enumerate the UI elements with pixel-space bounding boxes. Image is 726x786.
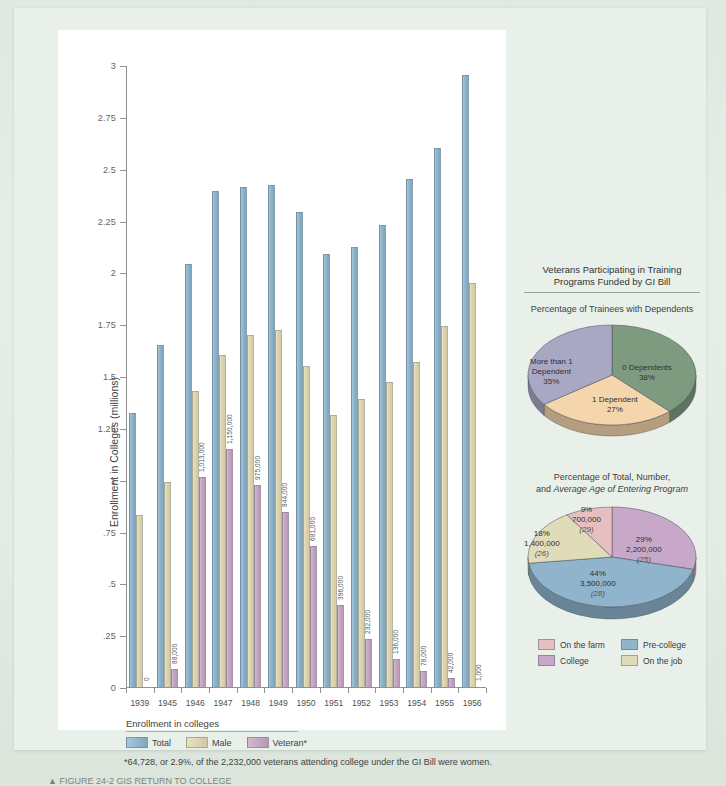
bar-vet[interactable]: 136,000 <box>393 659 400 687</box>
y-axis-line <box>126 66 127 688</box>
x-tick <box>320 688 321 693</box>
bar-vet[interactable]: 232,000 <box>365 639 372 687</box>
bar-vet[interactable]: 975,000 <box>254 485 261 687</box>
y-tick: 2.25 <box>120 222 126 223</box>
legend-item-total[interactable]: Total <box>126 737 171 748</box>
bar-value-label: 1,150,000 <box>226 414 233 444</box>
bar-total[interactable] <box>296 212 303 687</box>
x-tick-label: 1956 <box>463 698 482 708</box>
y-tick-label: .5 <box>108 579 116 589</box>
pie2-legend-swatch-icon <box>621 639 638 650</box>
bar-total[interactable] <box>268 185 275 687</box>
bar-total[interactable] <box>462 75 469 687</box>
bar-vet[interactable]: 396,000 <box>337 605 344 687</box>
y-tick-label: 1.5 <box>103 372 116 382</box>
x-tick-label: 1950 <box>297 698 316 708</box>
pie2-legend-item-college[interactable]: College <box>538 655 617 666</box>
bar-group: 136,000 <box>378 66 401 687</box>
bar-male[interactable] <box>164 482 171 687</box>
bar-vet[interactable]: 844,000 <box>282 512 289 687</box>
bar-total[interactable] <box>379 225 386 687</box>
legend-items: TotalMaleVeteran* <box>126 737 506 748</box>
y-axis-title: Enrollment in Colleges (millions) <box>108 377 120 527</box>
y-tick-label: 3 <box>111 61 116 71</box>
x-tick <box>237 688 238 693</box>
legend-item-label: Veteran* <box>273 738 308 748</box>
bar-total[interactable] <box>185 264 192 687</box>
bar-male[interactable] <box>192 391 199 687</box>
x-tick-label: 1946 <box>186 698 205 708</box>
pie1-title: Percentage of Trainees with Dependents <box>514 303 710 315</box>
legend-item-male[interactable]: Male <box>186 737 232 748</box>
legend-title: Enrollment in colleges <box>126 718 298 732</box>
bar-male[interactable] <box>469 283 476 687</box>
x-tick-label: 1947 <box>213 698 232 708</box>
bar-chart-legend: Enrollment in colleges TotalMaleVeteran* <box>126 718 506 748</box>
bar-total[interactable] <box>129 413 136 687</box>
bar-male[interactable] <box>219 355 226 687</box>
bar-value-label: 0 <box>143 677 150 681</box>
legend-item-label: Total <box>152 738 171 748</box>
y-tick-label: 1 <box>111 476 116 486</box>
bar-male[interactable] <box>247 335 254 687</box>
bar-group: 975,000 <box>239 66 262 687</box>
y-tick-label: .75 <box>103 528 116 538</box>
x-tick-label: 1949 <box>269 698 288 708</box>
bar-group: 1,000 <box>461 66 484 687</box>
bar-total[interactable] <box>351 247 358 687</box>
bar-value-label: 396,000 <box>337 576 344 600</box>
pie2-title: Percentage of Total, Number, and Average… <box>514 471 710 495</box>
x-tick <box>292 688 293 693</box>
bar-group: 232,000 <box>350 66 373 687</box>
figure-caption: ▲ FIGURE 24-2 GIS RETURN TO COLLEGE <box>48 776 232 786</box>
bar-value-label: 975,000 <box>254 456 261 480</box>
pie2-legend-item-on-the-job[interactable]: On the job <box>621 655 700 666</box>
bar-value-label: 1,000 <box>475 664 482 681</box>
x-tick <box>431 688 432 693</box>
bar-vet[interactable]: 1,150,000 <box>226 449 233 687</box>
bar-male[interactable] <box>330 415 337 687</box>
y-tick: .5 <box>120 584 126 585</box>
bar-vet[interactable]: 88,000 <box>171 669 178 687</box>
bar-total[interactable] <box>406 179 413 687</box>
bar-male[interactable] <box>358 399 365 687</box>
x-axis-line <box>126 687 486 688</box>
bar-group: 0 <box>128 66 151 687</box>
bar-chart-panel: Enrollment in Colleges (millions) 0.25.5… <box>58 30 506 730</box>
bar-vet[interactable]: 42,000 <box>448 678 455 687</box>
x-tick <box>486 688 487 693</box>
pie2-legend-item-on-the-farm[interactable]: On the farm <box>538 639 617 650</box>
legend-swatch-icon <box>186 737 208 748</box>
pie2-legend: On the farmPre-collegeCollegeOn the job <box>524 639 700 666</box>
bar-total[interactable] <box>157 345 164 687</box>
bar-male[interactable] <box>136 515 143 687</box>
legend-item-veteran[interactable]: Veteran* <box>247 737 308 748</box>
pie1-wrap-svg <box>518 319 706 445</box>
bar-total[interactable] <box>240 187 247 687</box>
bar-total[interactable] <box>323 254 330 687</box>
bar-total[interactable] <box>212 191 219 687</box>
bar-male[interactable] <box>441 326 448 687</box>
pie2-legend-label: On the job <box>643 656 682 666</box>
bar-male[interactable] <box>413 362 420 688</box>
pie2-legend-item-pre-college[interactable]: Pre-college <box>621 639 700 650</box>
figure-page: Enrollment in Colleges (millions) 0.25.5… <box>0 0 726 786</box>
bar-vet[interactable]: 1,013,000 <box>199 477 206 687</box>
x-tick <box>403 688 404 693</box>
bar-group: 1,150,000 <box>211 66 234 687</box>
legend-swatch-icon <box>247 737 269 748</box>
pie1-wrap: 0 Dependents38%1 Dependent27%More than 1… <box>518 319 706 445</box>
bar-male[interactable] <box>275 330 282 687</box>
x-tick <box>348 688 349 693</box>
x-tick-label: 1945 <box>158 698 177 708</box>
y-tick-label: 1.25 <box>98 424 116 434</box>
y-tick: .25 <box>120 636 126 637</box>
x-tick-label: 1955 <box>435 698 454 708</box>
bar-total[interactable] <box>434 148 441 687</box>
bar-vet[interactable]: 681,000 <box>310 546 317 687</box>
bar-value-label: 42,000 <box>447 653 454 673</box>
pie2-legend-label: Pre-college <box>643 640 686 650</box>
bar-vet[interactable]: 78,000 <box>420 671 427 687</box>
pie2-legend-swatch-icon <box>538 655 555 666</box>
figure-card: Enrollment in Colleges (millions) 0.25.5… <box>14 8 706 750</box>
